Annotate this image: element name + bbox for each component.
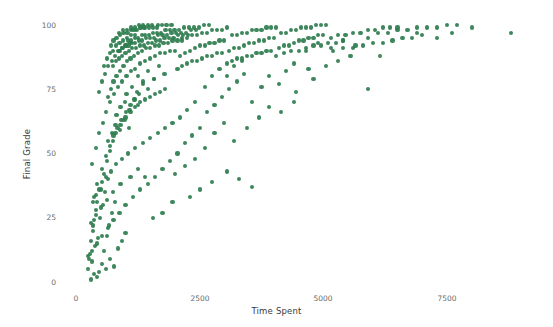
scatter-point (400, 36, 404, 40)
scatter-point (90, 259, 94, 263)
scatter-point (122, 118, 126, 122)
scatter-point (106, 177, 110, 181)
scatter-point (99, 205, 103, 209)
scatter-point (100, 262, 104, 266)
scatter-point (366, 36, 370, 40)
scatter-point (111, 64, 115, 68)
scatter-point (267, 74, 271, 78)
scatter-point (128, 41, 132, 45)
scatter-point (141, 82, 145, 86)
scatter-point (130, 46, 134, 50)
scatter-point (395, 25, 399, 29)
scatter-point (195, 33, 199, 37)
scatter-point (230, 59, 234, 63)
scatter-point (212, 103, 216, 107)
scatter-point (435, 25, 439, 29)
scatter-point (314, 23, 318, 27)
scatter-point (99, 187, 103, 191)
scatter-point (113, 131, 117, 135)
scatter-point (177, 28, 181, 32)
scatter-point (125, 31, 129, 35)
scatter-point (289, 49, 293, 53)
scatter-point (178, 115, 182, 119)
scatter-point (133, 97, 137, 101)
scatter-point (148, 46, 152, 50)
scatter-point (198, 126, 202, 130)
scatter-point (117, 31, 121, 35)
scatter-point (151, 25, 155, 29)
scatter-point (178, 54, 182, 58)
scatter-point (154, 38, 158, 42)
scatter-point (117, 41, 121, 45)
scatter-point (240, 59, 244, 63)
scatter-point (284, 69, 288, 73)
scatter-point (242, 43, 246, 47)
scatter-point (220, 95, 224, 99)
scatter-point (129, 25, 133, 29)
scatter-point (210, 54, 214, 58)
scatter-point (130, 41, 134, 45)
scatter-point (180, 38, 184, 42)
scatter-point (94, 208, 98, 212)
scatter-point (103, 190, 107, 194)
y-axis-title: Final Grade (22, 99, 32, 209)
scatter-point (126, 151, 130, 155)
plot-area (0, 0, 553, 327)
scatter-point (247, 41, 251, 45)
scatter-point (120, 46, 124, 50)
scatter-point (319, 43, 323, 47)
scatter-point (254, 28, 258, 32)
scatter-point (203, 43, 207, 47)
scatter-point (136, 103, 140, 107)
scatter-point (118, 182, 122, 186)
scatter-point (450, 31, 454, 35)
scatter-point (304, 49, 308, 53)
scatter-point (386, 31, 390, 35)
scatter-point (143, 175, 147, 179)
scatter-point (259, 51, 263, 55)
scatter-point (232, 64, 236, 68)
scatter-point (124, 74, 128, 78)
scatter-point (111, 139, 115, 143)
scatter-point (225, 169, 229, 173)
scatter-point (139, 25, 143, 29)
scatter-point (175, 67, 179, 71)
scatter-point (123, 43, 127, 47)
scatter-point (87, 257, 91, 261)
scatter-point (148, 36, 152, 40)
scatter-point (410, 36, 414, 40)
scatter-point (180, 64, 184, 68)
scatter-point (279, 110, 283, 114)
scatter-point (274, 25, 278, 29)
scatter-point (138, 43, 142, 47)
scatter-point (284, 31, 288, 35)
scatter-point (148, 136, 152, 140)
scatter-point (138, 61, 142, 65)
scatter-point (155, 25, 159, 29)
scatter-point (183, 164, 187, 168)
scatter-point (97, 90, 101, 94)
scatter-point (97, 131, 101, 135)
scatter-point (108, 144, 112, 148)
scatter-point (133, 33, 137, 37)
scatter-point (162, 36, 166, 40)
scatter-point (114, 162, 118, 166)
scatter-point (102, 249, 106, 253)
scatter-point (97, 270, 101, 274)
scatter-point (415, 31, 419, 35)
scatter-point (176, 33, 180, 37)
scatter-point (123, 203, 127, 207)
scatter-point (353, 43, 357, 47)
scatter-point (163, 51, 167, 55)
scatter-point (425, 25, 429, 29)
scatter-point (92, 195, 96, 199)
scatter-point (95, 182, 99, 186)
scatter-point (190, 133, 194, 137)
scatter-point (118, 33, 122, 37)
scatter-point (156, 33, 160, 37)
scatter-point (210, 74, 214, 78)
scatter-point (329, 46, 333, 50)
scatter-point (111, 49, 115, 53)
scatter-point (341, 46, 345, 50)
x-tick-label-5000: 5000 (303, 294, 343, 303)
